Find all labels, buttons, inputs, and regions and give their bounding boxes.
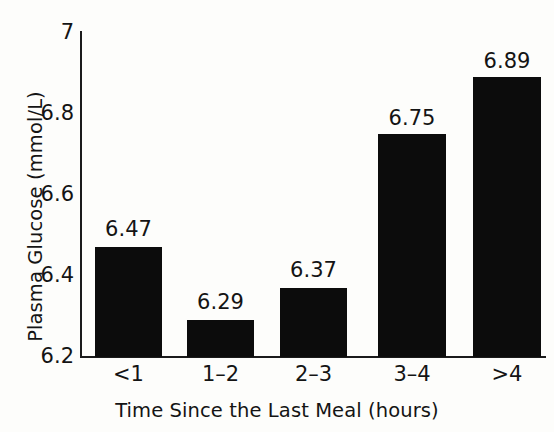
plot-area: 6.47 6.29 6.37 6.75 6.89 xyxy=(80,32,546,357)
chart-figure: Plasma Glucose (mmol/L) 7 6.8 6.6 6.4 6.… xyxy=(0,0,554,432)
x-tick-label: 3–4 xyxy=(378,364,446,385)
bar-value-label: 6.37 xyxy=(280,260,347,281)
bar-value-label: 6.89 xyxy=(473,51,541,72)
y-tick-label: 6.8 xyxy=(28,103,74,124)
y-tick-label: 6.4 xyxy=(28,265,74,286)
x-tick-label: >4 xyxy=(473,364,541,385)
bar-value-label: 6.47 xyxy=(95,219,162,240)
bar-value-label: 6.75 xyxy=(378,108,446,129)
bar xyxy=(280,288,347,357)
y-tick-label: 6.2 xyxy=(28,346,74,367)
x-tick-label: 1–2 xyxy=(187,364,254,385)
x-tick-label: <1 xyxy=(95,364,162,385)
bar xyxy=(187,320,254,357)
bar-value-label: 6.29 xyxy=(187,292,254,313)
x-tick-label: 2–3 xyxy=(280,364,347,385)
x-axis-title: Time Since the Last Meal (hours) xyxy=(0,399,554,422)
bar xyxy=(95,247,162,357)
y-axis-tick-labels: 7 6.8 6.6 6.4 6.2 xyxy=(28,0,74,432)
bar xyxy=(378,134,446,357)
bar xyxy=(473,77,541,357)
y-tick-label: 7 xyxy=(28,22,74,43)
y-tick-label: 6.6 xyxy=(28,184,74,205)
